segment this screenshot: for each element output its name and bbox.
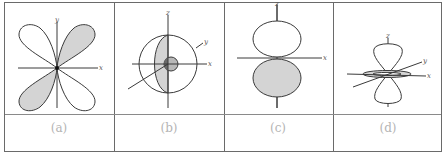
orbital-diagrams: y x z y x z x z y x — [0, 0, 443, 159]
lobe-top-right — [57, 25, 95, 68]
axis-label-y: y — [54, 16, 60, 24]
lobe-top-left — [19, 25, 57, 68]
axis-label-z: z — [385, 32, 390, 40]
lobe-upper — [253, 21, 301, 57]
panel-d-diagram — [347, 38, 426, 107]
axis-label-x: x — [99, 64, 103, 72]
panel-label-c: (c) — [223, 121, 333, 135]
panel-label-d: (d) — [333, 121, 443, 135]
panel-b-diagram — [128, 15, 207, 108]
panel-label-b: (b) — [114, 121, 224, 135]
axis-label-x: x — [323, 54, 327, 62]
lobe-bottom-left — [19, 68, 57, 111]
axis-label-z: z — [165, 9, 170, 17]
axis-label-z: z — [274, 0, 279, 8]
panel-label-a: (a) — [4, 121, 114, 135]
lobe-lower — [375, 74, 402, 104]
lobe-lower — [253, 59, 301, 97]
lobe-bottom-right — [57, 68, 95, 111]
lobe-upper — [374, 44, 403, 74]
axis-label-y: y — [422, 57, 428, 65]
panel-a-diagram — [18, 22, 98, 111]
axis-label-y: y — [203, 38, 209, 46]
panel-c-diagram — [237, 4, 322, 108]
axis-label-x: x — [427, 72, 431, 80]
axis-label-x: x — [208, 60, 212, 68]
